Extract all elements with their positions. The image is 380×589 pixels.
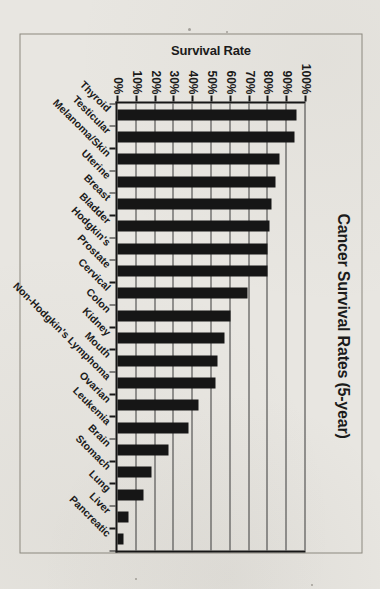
value-tick bbox=[172, 95, 174, 101]
chart-title: Cancer Survival Rates (5-year) bbox=[333, 101, 351, 550]
plot-area bbox=[115, 101, 305, 552]
value-tick bbox=[248, 95, 250, 101]
gridline bbox=[191, 103, 192, 550]
value-tick bbox=[116, 95, 118, 101]
value-tick-label: 0% bbox=[111, 34, 123, 94]
gridline bbox=[266, 103, 267, 550]
bar bbox=[117, 466, 151, 477]
value-tick-label: 50% bbox=[205, 34, 217, 94]
bar bbox=[117, 399, 198, 410]
value-tick-label: 80% bbox=[261, 34, 273, 94]
value-tick-label: 100% bbox=[299, 34, 311, 94]
scan-speck bbox=[188, 28, 191, 31]
gridline bbox=[285, 103, 286, 550]
value-tick-label: 70% bbox=[243, 34, 255, 94]
scanned-page: { "page": { "background": "#e8e6e1", "bo… bbox=[0, 0, 380, 589]
bar bbox=[117, 355, 217, 366]
value-tick-label: 30% bbox=[167, 34, 179, 94]
bar bbox=[117, 287, 247, 298]
gridline bbox=[210, 103, 211, 550]
bar bbox=[117, 243, 267, 254]
gridline bbox=[248, 103, 249, 550]
value-tick-label: 60% bbox=[224, 34, 236, 94]
bar bbox=[117, 332, 224, 343]
value-tick-label: 10% bbox=[130, 34, 142, 94]
scan-speck bbox=[226, 31, 228, 33]
value-tick-label: 40% bbox=[186, 34, 198, 94]
scan-speck bbox=[311, 584, 313, 586]
value-tick bbox=[135, 95, 137, 101]
value-tick-label: 20% bbox=[149, 34, 161, 94]
bar bbox=[117, 444, 168, 455]
value-tick bbox=[266, 95, 268, 101]
value-tick bbox=[285, 95, 287, 101]
bar bbox=[117, 310, 230, 321]
bar bbox=[117, 265, 267, 276]
value-tick bbox=[210, 95, 212, 101]
chart-frame: Cancer Survival Rates (5-year) Survival … bbox=[19, 33, 362, 553]
value-tick-label: 90% bbox=[280, 34, 292, 94]
gridline bbox=[135, 103, 136, 550]
category-tick bbox=[109, 550, 115, 552]
bar bbox=[117, 176, 275, 187]
bar bbox=[117, 198, 271, 209]
gridline bbox=[172, 103, 173, 550]
bar bbox=[117, 489, 143, 500]
gridline bbox=[229, 103, 230, 550]
gridline bbox=[154, 103, 155, 550]
value-tick bbox=[154, 95, 156, 101]
scan-speck bbox=[135, 578, 137, 580]
bar bbox=[117, 377, 215, 388]
value-tick bbox=[229, 95, 231, 101]
bar bbox=[117, 422, 188, 433]
bar bbox=[117, 511, 128, 522]
bar bbox=[117, 533, 123, 544]
bar bbox=[117, 109, 296, 120]
bar bbox=[117, 153, 279, 164]
gridline bbox=[304, 103, 305, 550]
bar bbox=[117, 131, 294, 142]
value-tick bbox=[191, 95, 193, 101]
bar bbox=[117, 220, 269, 231]
value-tick bbox=[304, 95, 306, 101]
